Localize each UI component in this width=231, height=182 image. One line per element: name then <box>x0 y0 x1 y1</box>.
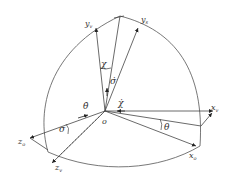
axes <box>30 16 213 163</box>
axis-x-o <box>105 111 196 146</box>
label-chi: χ <box>100 59 107 69</box>
angle-arc-theta <box>160 119 162 130</box>
axis-z-o <box>30 111 105 138</box>
label-z-v: zv <box>54 163 62 173</box>
label-chi-dot: χ̇ <box>117 98 124 108</box>
axis-y-v <box>96 28 105 111</box>
label-y-v: yv <box>84 19 93 29</box>
label-origin: o <box>102 117 107 126</box>
arc-tangent-x <box>201 113 212 126</box>
arc-left <box>44 16 120 152</box>
coordinate-frame-diagram: yv ys xv xo zo zv o χ σ̇ θ̇ χ̇ σ θ <box>0 0 231 182</box>
label-y-s: ys <box>140 15 149 25</box>
label-z-o: zo <box>17 137 25 147</box>
label-theta-dot: θ̇ <box>83 101 89 111</box>
label-sigma: σ <box>59 124 66 134</box>
label-sigma-dot: σ̇ <box>110 76 117 86</box>
sphere-arcs <box>44 16 201 167</box>
axis-x-mid <box>105 111 201 126</box>
arc-right <box>120 16 201 146</box>
axis-top <box>105 16 120 111</box>
label-theta: θ <box>164 122 170 132</box>
label-x-v: xv <box>211 103 219 113</box>
arc-bottom <box>48 146 200 167</box>
label-x-o: xo <box>189 151 197 161</box>
angle-arc-sigma <box>66 124 69 134</box>
